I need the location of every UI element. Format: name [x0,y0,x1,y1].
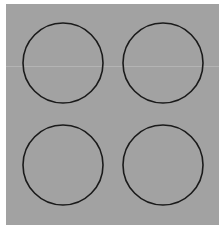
circle-top-left [23,23,103,103]
circle-bottom-right [123,125,203,205]
circle-bottom-left [23,125,103,205]
circles-canvas [0,0,224,231]
circle-top-right [123,23,203,103]
